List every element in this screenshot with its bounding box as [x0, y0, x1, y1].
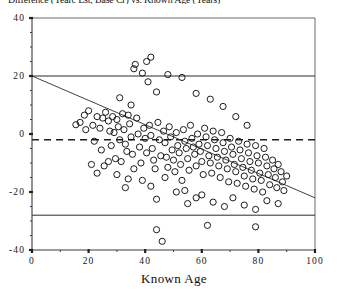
data-point: [264, 198, 270, 204]
data-point: [247, 158, 253, 164]
data-point: [153, 196, 159, 202]
data-point: [251, 186, 257, 192]
data-point: [202, 125, 208, 131]
data-point: [217, 174, 223, 180]
data-points-group: [73, 54, 290, 244]
data-point: [172, 169, 178, 175]
data-point: [153, 89, 159, 95]
data-point: [118, 158, 124, 164]
data-point: [220, 140, 226, 146]
data-point: [185, 201, 191, 207]
data-point: [173, 129, 179, 135]
data-point: [210, 199, 216, 205]
data-point: [86, 108, 92, 114]
data-point: [204, 222, 210, 228]
data-point: [139, 177, 145, 183]
data-point: [121, 127, 127, 133]
data-point: [131, 66, 137, 72]
data-point: [252, 224, 258, 230]
data-point: [144, 150, 150, 156]
data-point: [213, 145, 219, 151]
data-point: [125, 176, 131, 182]
data-point: [170, 157, 176, 163]
data-point: [241, 202, 247, 208]
figure-title-clipped: Difference (Yearc Est, Base Cr) vs. Know…: [8, 0, 338, 4]
data-point: [185, 156, 191, 162]
data-point: [241, 173, 247, 179]
data-point: [101, 163, 107, 169]
data-point: [139, 70, 145, 76]
data-point: [145, 79, 151, 85]
data-point: [265, 172, 271, 178]
data-point: [207, 96, 213, 102]
data-point: [284, 173, 290, 179]
data-point: [175, 143, 181, 149]
data-point: [102, 109, 108, 115]
data-point: [117, 95, 123, 101]
data-point: [182, 187, 188, 193]
data-point: [230, 195, 236, 201]
data-point: [278, 169, 284, 175]
data-point: [91, 138, 97, 144]
data-point: [152, 166, 158, 172]
data-point: [196, 141, 202, 147]
data-point: [162, 174, 168, 180]
data-point: [94, 170, 100, 176]
data-point: [127, 121, 133, 127]
data-point: [267, 182, 273, 188]
data-point: [275, 201, 281, 207]
data-point: [97, 125, 103, 131]
data-point: [114, 172, 120, 178]
data-point: [199, 192, 205, 198]
data-point: [254, 153, 260, 159]
y-tick-label: 0: [19, 129, 25, 139]
data-point: [115, 124, 121, 130]
data-point: [148, 54, 154, 60]
data-point: [250, 176, 256, 182]
data-point: [107, 128, 113, 134]
data-point: [108, 143, 114, 149]
x-tick-label: 40: [139, 256, 151, 266]
data-point: [165, 71, 171, 77]
y-tick-label: -40: [9, 245, 25, 255]
data-point: [244, 122, 250, 128]
data-point: [183, 145, 189, 151]
data-point: [252, 206, 258, 212]
data-point: [179, 74, 185, 80]
data-point: [134, 115, 140, 121]
data-point: [224, 166, 230, 172]
data-point: [155, 119, 161, 125]
x-tick-label: 60: [196, 256, 208, 266]
data-point: [169, 147, 175, 153]
data-point: [234, 180, 240, 186]
x-axis-tick-labels: 020406080100: [29, 256, 324, 266]
data-point: [138, 160, 144, 166]
x-tick-label: 0: [29, 256, 35, 266]
data-point: [226, 179, 232, 185]
data-point: [179, 177, 185, 183]
data-point: [269, 157, 275, 163]
data-point: [204, 143, 210, 149]
x-tick-label: 80: [253, 256, 265, 266]
data-point: [166, 124, 172, 130]
data-point: [193, 163, 199, 169]
data-point: [193, 90, 199, 96]
y-axis-tick-labels: -40-2002040: [9, 13, 25, 255]
plot-canvas: -40-2002040 020406080100 Known Age: [0, 0, 340, 290]
data-point: [238, 156, 244, 162]
data-point: [153, 227, 159, 233]
data-point: [233, 114, 239, 120]
data-point: [180, 127, 186, 133]
data-point: [245, 150, 251, 156]
data-point: [194, 131, 200, 137]
data-point: [272, 174, 278, 180]
data-point: [258, 177, 264, 183]
data-point: [207, 160, 213, 166]
y-tick-label: 20: [13, 71, 25, 81]
data-point: [228, 144, 234, 150]
data-point: [260, 189, 266, 195]
data-point: [220, 103, 226, 109]
data-point: [159, 238, 165, 244]
data-point: [160, 128, 166, 134]
data-point: [132, 61, 138, 67]
